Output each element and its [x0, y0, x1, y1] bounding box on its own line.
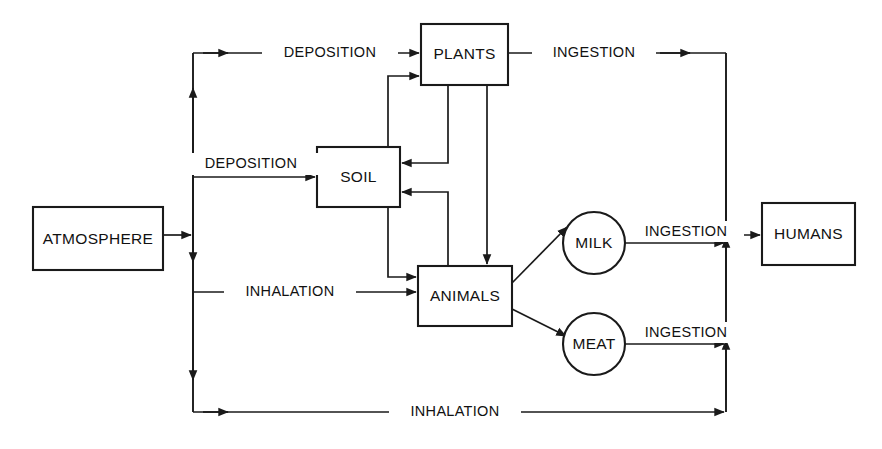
edge-label-text: INGESTION: [645, 223, 727, 239]
pathway-soil-animals: [388, 207, 416, 277]
edge-label-deposition-soil: DEPOSITION: [183, 153, 319, 175]
edge-label-ingestion-meat-humans: INGESTION: [628, 322, 744, 343]
node-atmosphere[interactable]: ATMOSPHERE: [33, 207, 163, 270]
edge-label-text: DEPOSITION: [284, 44, 376, 60]
edge-label-ingestion-plants-humans: INGESTION: [532, 42, 656, 64]
node-soil[interactable]: SOIL: [317, 147, 400, 207]
pathway-animals-meat: [512, 309, 566, 336]
atmosphere-distribution-trunk: [163, 53, 193, 412]
node-label-animals: ANIMALS: [430, 287, 500, 304]
pathway-animals-milk: [512, 227, 567, 283]
pathway-soil-plants: [388, 76, 419, 147]
edge-label-text: INHALATION: [246, 283, 335, 299]
exposure-pathway-diagram: ATMOSPHERE SOIL PLANTS ANIMALS MILK MEAT…: [0, 0, 882, 449]
node-meat[interactable]: MEAT: [563, 313, 625, 375]
diagram-canvas: ATMOSPHERE SOIL PLANTS ANIMALS MILK MEAT…: [0, 0, 882, 449]
node-milk[interactable]: MILK: [563, 212, 625, 274]
edge-label-inhalation-animals: INHALATION: [224, 281, 356, 303]
edge-label-inhalation-humans: INHALATION: [389, 401, 521, 423]
node-label-meat: MEAT: [572, 335, 615, 352]
node-humans[interactable]: HUMANS: [762, 203, 855, 265]
node-label-plants: PLANTS: [433, 45, 495, 62]
node-label-milk: MILK: [575, 234, 613, 251]
node-label-atmosphere: ATMOSPHERE: [43, 230, 153, 247]
edge-label-text: INGESTION: [553, 44, 635, 60]
pathway-plants-soil: [402, 85, 448, 163]
node-label-humans: HUMANS: [774, 225, 843, 242]
edge-label-ingestion-milk-humans: INGESTION: [628, 221, 744, 242]
node-label-soil: SOIL: [340, 168, 377, 185]
edge-label-text: DEPOSITION: [205, 155, 297, 171]
edge-label-text: INGESTION: [645, 324, 727, 340]
edge-label-text: INHALATION: [411, 403, 500, 419]
pathway-animals-soil: [402, 192, 448, 266]
node-plants[interactable]: PLANTS: [421, 24, 508, 85]
node-animals[interactable]: ANIMALS: [418, 266, 512, 326]
edge-label-deposition-plants: DEPOSITION: [262, 42, 398, 64]
